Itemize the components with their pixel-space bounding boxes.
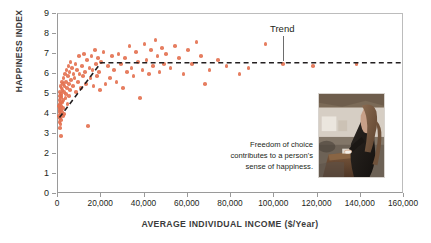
annotation-layer: Trend Freedom of choice contributes to a… xyxy=(0,0,431,243)
caption-text: Freedom of choice contributes to a perso… xyxy=(213,140,313,172)
voting-photo-illustration xyxy=(319,94,384,177)
trend-label: Trend xyxy=(270,23,294,34)
happiness-income-scatter-figure: HAPPINESS INDEX AVERAGE INDIVIDUAL INCOM… xyxy=(0,0,431,243)
voting-photo xyxy=(318,93,385,178)
trend-leader-line xyxy=(283,36,284,61)
